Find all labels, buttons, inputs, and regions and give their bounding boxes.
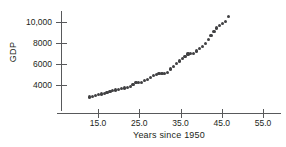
data-point (224, 20, 227, 23)
data-point (212, 30, 215, 33)
x-axis-title: Years since 1950 (57, 130, 281, 140)
data-point (215, 26, 218, 29)
data-point (169, 67, 172, 70)
data-point (207, 38, 210, 41)
data-point (166, 71, 169, 74)
data-point (172, 65, 175, 68)
data-point (209, 34, 212, 37)
data-point (178, 59, 181, 62)
data-point (201, 45, 204, 48)
gdp-scatter-chart: GDP 40006000800010,000 15.025.035.045.05… (0, 0, 286, 147)
data-point (204, 42, 207, 45)
plot-area (0, 0, 286, 147)
data-point (195, 49, 198, 52)
data-point (227, 15, 230, 18)
